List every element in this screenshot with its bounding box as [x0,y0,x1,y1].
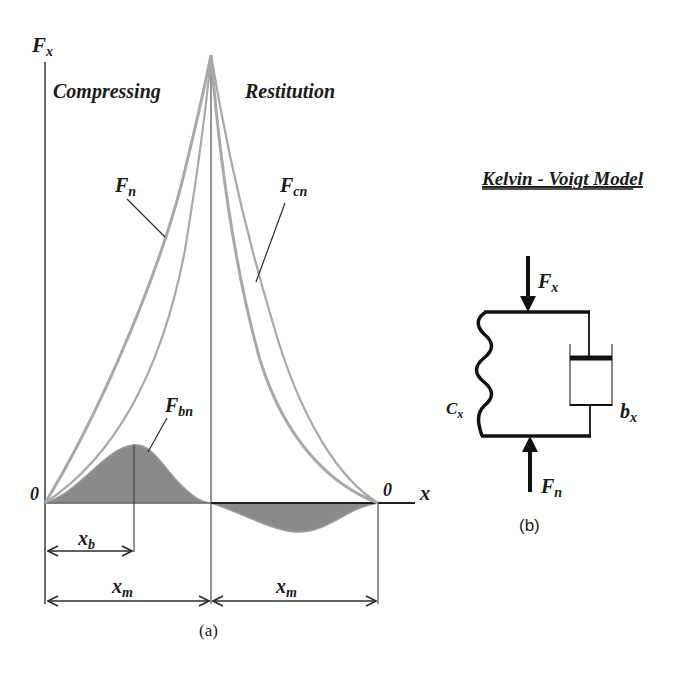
fbn-negative-lobe [211,503,378,532]
fcn-leader-line [256,203,285,282]
fbn-leader-line [148,418,167,452]
panel-a-force-displacement: Fx x 0 0 Compressing Restitution Fn [30,33,430,640]
panel-b-caption: (b) [519,516,540,535]
fx-force-label: Fx [537,270,558,295]
spring-label: Cx [446,399,463,421]
fn-arrow-head [522,436,538,452]
fbn-positive-lobe [45,445,211,503]
fcn-curve-label: Fcn [279,174,308,199]
fcn-curve-inner [211,55,378,503]
fn-curve-inner [45,55,211,503]
xb-label: xb [77,527,95,552]
fn-curve-outer [45,55,211,503]
xm-right-label: xm [275,575,297,600]
fx-arrow-head [520,296,536,312]
spring-element [477,312,492,436]
fn-curve-label: Fn [114,174,136,199]
fbn-curve-label: Fbn [164,394,193,419]
fn-force-label: Fn [540,475,562,500]
damper-label: bx [620,400,637,425]
xm-left-label: xm [111,575,133,600]
contact-force-figure: Fx x 0 0 Compressing Restitution Fn [0,0,673,674]
y-axis-label: Fx [31,33,53,59]
origin-right-label: 0 [383,480,392,500]
origin-left-label: 0 [30,484,39,504]
fn-leader-line [127,199,165,237]
restitution-label: Restitution [244,80,335,102]
kelvin-voigt-title: Kelvin - Voigt Model [481,168,644,189]
x-axis-label: x [419,482,430,504]
panel-a-caption: (a) [199,621,218,640]
panel-b-kelvin-voigt-model: Kelvin - Voigt Model Fx Cx bx Fn [446,168,644,535]
compressing-label: Compressing [53,80,161,103]
